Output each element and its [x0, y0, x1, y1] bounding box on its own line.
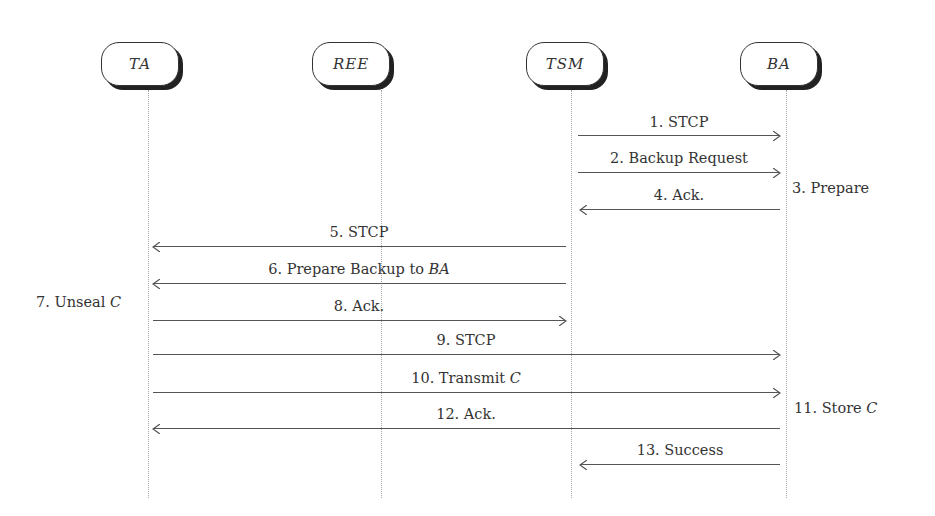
message-arrow-13: [580, 464, 780, 465]
message-arrow-5: [153, 246, 566, 247]
message-label-4: 4. Ack.: [654, 187, 704, 203]
message-label-6-text: 6. Prepare Backup to: [268, 261, 428, 277]
arrowhead-left-icon: [579, 460, 587, 468]
message-label-10: 10. Transmit C: [411, 370, 521, 386]
actor-tsm-label: TSM: [546, 55, 585, 73]
arrowhead-right-icon: [773, 168, 781, 176]
message-arrow-9: [153, 354, 780, 355]
actor-ta: TA: [101, 42, 179, 86]
arrowhead-right-icon: [773, 350, 781, 358]
message-label-8: 8. Ack.: [334, 298, 384, 314]
message-label-6: 6. Prepare Backup to BA: [268, 261, 450, 277]
arrowhead-right-icon: [773, 388, 781, 396]
message-label-10-text: 10. Transmit: [411, 370, 510, 386]
arrowhead-left-icon: [152, 279, 160, 287]
message-arrow-10: [153, 392, 780, 393]
note-7-text: 7. Unseal: [36, 294, 110, 310]
message-label-5: 5. STCP: [330, 224, 389, 240]
arrowhead-left-icon: [579, 205, 587, 213]
message-label-2: 2. Backup Request: [610, 150, 748, 166]
note-11-math: C: [866, 400, 877, 416]
arrowhead-right-icon: [773, 131, 781, 139]
actor-tsm: TSM: [526, 42, 604, 86]
message-arrow-8: [153, 320, 566, 321]
actor-ba: BA: [740, 42, 818, 86]
message-label-12: 12. Ack.: [436, 406, 496, 422]
message-arrow-4: [580, 209, 780, 210]
note-11-text: 11. Store: [794, 400, 866, 416]
message-label-1: 1. STCP: [650, 114, 709, 130]
lifeline-ba: [786, 90, 787, 498]
message-label-6-math: BA: [429, 261, 450, 277]
actor-ree: REE: [312, 42, 390, 86]
lifeline-tsm: [571, 90, 572, 498]
arrowhead-left-icon: [152, 424, 160, 432]
message-arrow-2: [578, 172, 780, 173]
note-7-math: C: [110, 294, 121, 310]
actor-ree-label: REE: [333, 55, 369, 73]
message-label-9: 9. STCP: [437, 332, 496, 348]
message-arrow-12: [153, 428, 780, 429]
message-label-13: 13. Success: [637, 442, 724, 458]
arrowhead-left-icon: [152, 242, 160, 250]
note-11-store: 11. Store C: [794, 400, 877, 416]
actor-ba-label: BA: [767, 55, 791, 73]
arrowhead-right-icon: [559, 316, 567, 324]
lifeline-ta: [148, 90, 149, 498]
message-label-10-math: C: [510, 370, 521, 386]
message-arrow-6: [153, 283, 566, 284]
note-7-unseal: 7. Unseal C: [36, 294, 121, 310]
note-3-prepare: 3. Prepare: [792, 180, 869, 196]
lifeline-ree: [381, 90, 382, 498]
actor-ta-label: TA: [129, 55, 151, 73]
message-arrow-1: [578, 135, 780, 136]
